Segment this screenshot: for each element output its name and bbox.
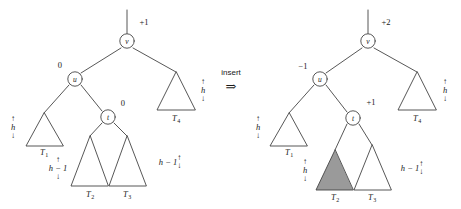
right-subtree-t3-label: T3 bbox=[368, 193, 376, 202]
left-subtree-t1-triangle bbox=[26, 113, 63, 146]
right-height-t3-arrows: ↑ ↓ bbox=[419, 160, 423, 176]
arrow-down-icon: ↓ bbox=[303, 174, 307, 182]
right-subtree-t2-triangle-shaded bbox=[316, 150, 353, 190]
right-subtree-t4-index: 4 bbox=[418, 118, 421, 124]
left-height-t3-value: h − 1 bbox=[159, 157, 178, 167]
right-node-t-label: t bbox=[352, 115, 354, 123]
left-height-t3: h − 1 ↑ ↓ bbox=[159, 154, 182, 170]
right-subtree-t2-index: 2 bbox=[336, 197, 339, 203]
left-node-v-label: v bbox=[125, 38, 128, 46]
left-edge-u-t bbox=[81, 85, 102, 111]
arrow-down-icon: ↓ bbox=[11, 131, 15, 139]
right-balance-t: +1 bbox=[366, 98, 375, 107]
arrow-down-icon: ↓ bbox=[419, 168, 423, 176]
right-height-t3-value: h − 1 bbox=[401, 163, 420, 173]
operation-label: insert bbox=[221, 68, 241, 77]
left-subtree-t3-index: 3 bbox=[128, 194, 131, 200]
arrow-down-icon: ↓ bbox=[201, 94, 205, 102]
left-edge-u-t1 bbox=[44, 85, 69, 113]
left-subtree-t1-label: T1 bbox=[40, 148, 48, 157]
arrow-down-icon: ↓ bbox=[56, 172, 60, 180]
left-node-t-label: t bbox=[107, 114, 109, 122]
left-subtree-t4-label: T4 bbox=[172, 114, 180, 123]
arrow-down-icon: ↓ bbox=[256, 131, 260, 139]
tree-diagram-canvas bbox=[0, 0, 461, 209]
left-subtree-t2-triangle bbox=[71, 136, 108, 186]
right-edge-u-t bbox=[326, 85, 347, 112]
left-subtree-t3-label: T3 bbox=[123, 190, 131, 199]
right-edge-t-t3 bbox=[359, 124, 372, 145]
right-balance-u: −1 bbox=[298, 62, 307, 71]
right-subtree-t1-triangle bbox=[270, 113, 307, 146]
right-height-t1: ↑ h ↓ bbox=[256, 115, 260, 140]
arrow-down-icon: ↓ bbox=[177, 162, 181, 170]
right-subtree-t4-label: T4 bbox=[413, 114, 421, 123]
arrow-down-icon: ↓ bbox=[443, 94, 447, 102]
right-subtree-t1-index: 1 bbox=[290, 152, 293, 158]
right-node-u-label: u bbox=[318, 76, 322, 84]
left-height-t3-arrows: ↑ ↓ bbox=[177, 154, 181, 170]
left-node-u-label: u bbox=[73, 76, 77, 84]
right-edge-v-t4 bbox=[374, 48, 417, 72]
right-subtree-t3-index: 3 bbox=[373, 197, 376, 203]
left-edge-t-t3 bbox=[114, 123, 127, 136]
right-subtree-t1-label: T1 bbox=[285, 148, 293, 157]
left-subtree-t2-label: T2 bbox=[86, 190, 94, 199]
right-balance-v: +2 bbox=[381, 18, 390, 27]
right-subtree-t4-triangle bbox=[398, 72, 436, 110]
right-node-v-label: v bbox=[366, 38, 369, 46]
left-height-t2: ↑ h − 1 ↓ bbox=[49, 156, 68, 181]
right-edge-u-t1 bbox=[289, 85, 314, 113]
left-subtree-t3-triangle bbox=[109, 136, 146, 186]
left-subtree-t4-triangle bbox=[157, 72, 195, 110]
left-subtree-t2-index: 2 bbox=[91, 194, 94, 200]
right-edge-t-t2 bbox=[335, 124, 347, 150]
right-height-t2: ↑ h ↓ bbox=[303, 158, 307, 183]
left-edge-v-t4 bbox=[133, 48, 176, 72]
right-subtree-t3-triangle bbox=[354, 145, 391, 190]
left-balance-u: 0 bbox=[58, 61, 62, 70]
left-height-t4: ↑ h ↓ bbox=[201, 78, 205, 103]
operation-arrow-icon: ⇒ bbox=[226, 80, 237, 93]
left-balance-t: 0 bbox=[121, 99, 125, 108]
right-height-t4: ↑ h ↓ bbox=[443, 78, 447, 103]
left-subtree-t4-index: 4 bbox=[177, 118, 180, 124]
avl-tree-figure: v +1 u 0 t 0 T1 T2 T3 T4 ↑ h ↓ ↑ h − 1 ↓… bbox=[0, 0, 461, 209]
left-edge-t-t2 bbox=[90, 123, 102, 136]
right-subtree-t2-label: T2 bbox=[331, 193, 339, 202]
right-edge-v-u bbox=[326, 48, 362, 73]
right-height-t3: h − 1 ↑ ↓ bbox=[401, 160, 424, 176]
left-edge-v-u bbox=[81, 48, 121, 73]
left-height-t1: ↑ h ↓ bbox=[11, 115, 15, 140]
left-balance-v: +1 bbox=[139, 18, 148, 27]
